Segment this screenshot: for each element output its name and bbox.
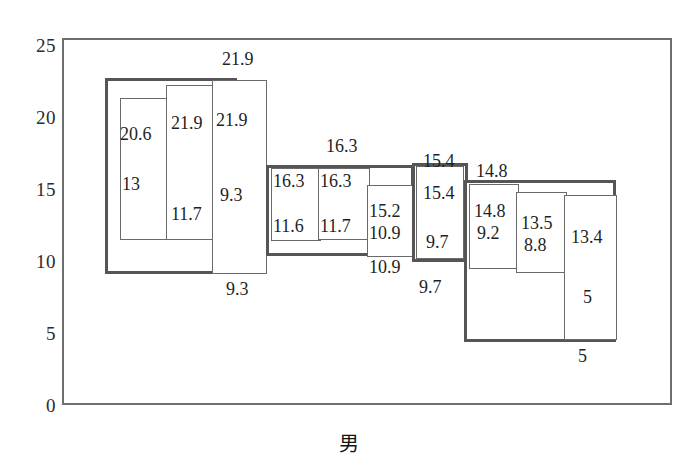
- box-4-3-upper-label: 13.4: [571, 228, 603, 246]
- group-3-outer-upper-label: 15.4: [423, 152, 455, 170]
- box-1-2-upper-label: 21.9: [171, 114, 203, 132]
- box-4-2-lower-label: 8.8: [524, 236, 547, 254]
- box-1-1-lower-label: 13: [122, 175, 140, 193]
- box-2-1-lower-label: 11.6: [273, 217, 304, 235]
- group-4-outer-upper-label: 14.8: [476, 162, 508, 180]
- box-1-2-lower-label: 11.7: [171, 205, 202, 223]
- group-1-outer-upper-label: 21.9: [222, 50, 254, 68]
- box-2-2-lower-label: 11.7: [320, 217, 351, 235]
- box-4-1-upper-label: 14.8: [474, 202, 506, 220]
- box-4-2-upper-label: 13.5: [521, 214, 553, 232]
- box-3-1-lower-label: 9.7: [426, 233, 449, 251]
- box-1-3-lower-label: 9.3: [220, 186, 243, 204]
- box-4-1-lower-label: 9.2: [477, 224, 500, 242]
- box-1-3-upper-label: 21.9: [216, 111, 248, 129]
- box-2-3: [367, 185, 417, 257]
- y-tick-10: 10: [12, 252, 56, 271]
- box-4-3-lower-label: 5: [583, 288, 592, 306]
- y-tick-5: 5: [12, 324, 56, 343]
- box-4-3: [564, 195, 617, 340]
- y-tick-0: 0: [12, 396, 56, 415]
- x-axis-title: 男: [0, 428, 698, 457]
- group-1-outer-lower-label: 9.3: [226, 280, 249, 298]
- box-3-1-upper-label: 15.4: [423, 184, 455, 202]
- y-tick-20: 20: [12, 108, 56, 127]
- y-tick-25: 25: [12, 36, 56, 55]
- box-2-2-upper-label: 16.3: [320, 172, 352, 190]
- box-2-3-lower-label: 10.9: [369, 224, 401, 242]
- group-2-outer-upper-label: 16.3: [326, 137, 358, 155]
- box-1-1: [120, 98, 171, 240]
- box-2-3-upper-label: 15.2: [369, 202, 401, 220]
- group-3-outer-lower-label: 9.7: [419, 278, 442, 296]
- y-axis: 25 20 15 10 5 0: [0, 0, 56, 466]
- box-1-1-upper-label: 20.6: [120, 125, 152, 143]
- y-tick-15: 15: [12, 180, 56, 199]
- chart-container: 25 20 15 10 5 0 21.9 9.3 16.3 10.9 15.4 …: [0, 0, 698, 466]
- group-2-outer-lower-label: 10.9: [369, 258, 401, 276]
- box-2-1-upper-label: 16.3: [273, 172, 305, 190]
- group-4-outer-lower-label: 5: [578, 347, 587, 365]
